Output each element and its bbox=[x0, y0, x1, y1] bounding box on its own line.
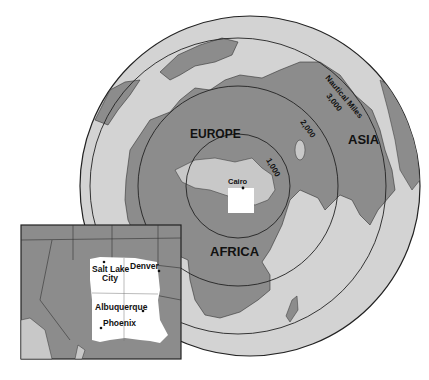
label-europe: EUROPE bbox=[190, 127, 241, 141]
label-phoenix: Phoenix bbox=[103, 318, 136, 328]
label-salt-lake-city-2: City bbox=[102, 273, 118, 283]
dot-salt-lake-city bbox=[103, 261, 106, 264]
dot-phoenix bbox=[100, 327, 103, 330]
label-asia: ASIA bbox=[348, 132, 380, 147]
label-africa: AFRICA bbox=[210, 244, 260, 259]
cairo-dot bbox=[242, 187, 245, 190]
cairo-range-map: EUROPE ASIA AFRICA Cairo 1,000 2,000 3,0… bbox=[0, 0, 429, 380]
label-albuquerque: Albuquerque bbox=[95, 302, 148, 312]
caspian-sea bbox=[295, 140, 305, 160]
cairo-highlight-area bbox=[228, 188, 254, 213]
label-cairo: Cairo bbox=[228, 177, 248, 186]
label-denver: Denver bbox=[130, 261, 160, 271]
inset-map: Salt Lake City Denver Albuquerque Phoeni… bbox=[21, 225, 181, 359]
